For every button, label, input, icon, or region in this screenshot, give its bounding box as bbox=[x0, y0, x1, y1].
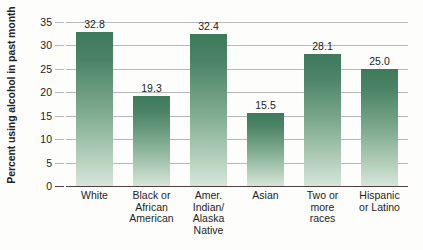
bar-chart: Percent using alcohol in past month 0510… bbox=[0, 0, 423, 250]
axis-baseline bbox=[66, 186, 408, 187]
gridline bbox=[66, 45, 408, 46]
plot-area bbox=[66, 22, 408, 186]
y-axis-tick-label: 5 bbox=[32, 157, 52, 169]
x-axis-category-label: Asian bbox=[252, 190, 278, 202]
gridline bbox=[66, 92, 408, 93]
bar-value-label: 25.0 bbox=[369, 55, 389, 67]
bar bbox=[133, 96, 170, 186]
y-axis-tick-label: 30 bbox=[32, 39, 52, 51]
y-axis-tick-mark bbox=[55, 69, 64, 70]
y-axis-tick-mark bbox=[55, 139, 64, 140]
gridline bbox=[66, 139, 408, 140]
y-axis-title: Percent using alcohol in past month bbox=[0, 0, 22, 190]
bar bbox=[304, 54, 341, 186]
bar-value-label: 19.3 bbox=[141, 82, 161, 94]
y-axis-tick-mark bbox=[55, 116, 64, 117]
x-axis-category-label: White bbox=[81, 190, 108, 202]
y-axis-tick-mark bbox=[55, 186, 64, 187]
x-axis-category-label: Amer. Indian/ Alaska Native bbox=[193, 190, 225, 236]
y-axis-tick-label: 35 bbox=[32, 16, 52, 28]
gridline bbox=[66, 163, 408, 164]
y-axis-tick-label: 25 bbox=[32, 63, 52, 75]
y-axis-tick-mark bbox=[55, 22, 64, 23]
gridline bbox=[66, 22, 408, 23]
y-axis-tick-mark bbox=[55, 92, 64, 93]
bar bbox=[247, 113, 284, 186]
bar-value-label: 15.5 bbox=[255, 99, 275, 111]
y-axis-tick-label: 20 bbox=[32, 86, 52, 98]
bar-value-label: 32.4 bbox=[198, 20, 218, 32]
x-axis-category-label: Black or African American bbox=[129, 190, 173, 225]
y-axis-tick-label: 10 bbox=[32, 133, 52, 145]
x-axis-category-label: Hispanic or Latino bbox=[359, 190, 400, 213]
y-axis-title-text: Percent using alcohol in past month bbox=[5, 6, 17, 183]
y-axis-tick-label: 0 bbox=[32, 180, 52, 192]
y-axis-tick-mark bbox=[55, 163, 64, 164]
bar bbox=[361, 69, 398, 186]
gridline bbox=[66, 69, 408, 70]
bar-value-label: 28.1 bbox=[312, 40, 332, 52]
bar bbox=[76, 32, 113, 186]
x-axis-category-label: Two or more races bbox=[307, 190, 339, 225]
y-axis-tick-label: 15 bbox=[32, 110, 52, 122]
y-axis-tick-mark bbox=[55, 45, 64, 46]
gridline bbox=[66, 116, 408, 117]
bar bbox=[190, 34, 227, 186]
bar-value-label: 32.8 bbox=[84, 18, 104, 30]
